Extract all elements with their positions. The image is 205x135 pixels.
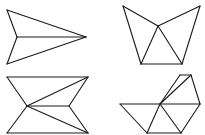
edge-line (7, 106, 27, 133)
edge-line (120, 104, 147, 133)
edge-line (160, 104, 181, 133)
edge-line (7, 10, 86, 37)
edge-line (158, 26, 182, 64)
edge-line (7, 77, 27, 106)
edge-line (147, 104, 160, 133)
edge-line (141, 26, 158, 64)
shape-bowtie (7, 77, 88, 133)
edge-line (7, 10, 17, 37)
edge-line (181, 104, 200, 133)
edge-line (191, 75, 200, 104)
shape-arrowhead (7, 10, 86, 64)
edge-line (160, 75, 191, 104)
figure-canvas (0, 0, 205, 135)
shape-fan (120, 75, 200, 133)
edge-line (7, 37, 17, 64)
edge-line (7, 37, 86, 64)
edge-line (182, 6, 200, 64)
shape-cup (123, 6, 200, 64)
edge-line (160, 75, 180, 104)
edge-line (158, 6, 200, 26)
figure-svg (0, 0, 205, 135)
